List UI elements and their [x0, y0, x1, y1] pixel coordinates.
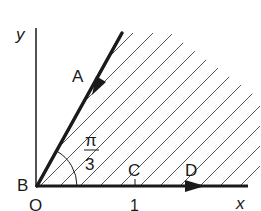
x-axis-label: x — [235, 194, 245, 211]
point-label-C: C — [128, 161, 140, 180]
contour-diagram: y x O 1 A B C D π 3 — [0, 0, 261, 211]
arrow-down-left-icon — [92, 76, 106, 95]
arrow-right-icon — [185, 180, 205, 192]
point-label-B: B — [17, 176, 28, 195]
origin-label: O — [29, 196, 42, 211]
angle-numerator: π — [85, 131, 97, 150]
y-axis-label: y — [15, 25, 26, 44]
ray-contour-A — [37, 33, 122, 186]
angle-denominator: 3 — [85, 155, 94, 174]
tick-label-1: 1 — [130, 197, 139, 211]
point-label-D: D — [185, 161, 197, 180]
point-label-A: A — [72, 67, 84, 86]
angle-arc — [57, 151, 78, 186]
